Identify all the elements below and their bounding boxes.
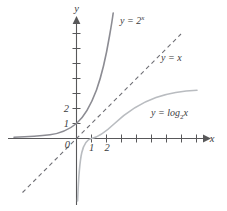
x-tick-label-1: 1	[89, 142, 94, 153]
exponential-curve-label: y = 2x	[119, 14, 145, 26]
logarithm-curve-label: y = log2x	[150, 107, 188, 121]
exp-label-exponent: x	[140, 14, 145, 22]
coordinate-plot: 0 1 2 1 2 x y y = 2x y = x y = log2x	[0, 0, 227, 211]
y-axis-label: y	[73, 3, 79, 14]
y-tick-label-1: 1	[64, 118, 69, 129]
svg-text:y = log2x: y = log2x	[150, 107, 188, 121]
svg-text:y = 2x: y = 2x	[119, 14, 145, 26]
origin-label: 0	[65, 139, 71, 150]
identity-label-text: y = x	[160, 52, 182, 63]
y-tick-label-2: 2	[64, 103, 70, 114]
exp-label-main: y = 2	[119, 15, 141, 26]
y-axis-arrowhead	[73, 16, 81, 24]
log-label-main: y = log	[150, 107, 180, 118]
x-tick-label-2: 2	[104, 142, 110, 153]
x-axis-label: x	[209, 133, 215, 144]
axes-group	[8, 16, 211, 205]
identity-line-label: y = x	[160, 52, 182, 63]
log-label-arg: x	[182, 107, 188, 118]
graph-figure: 0 1 2 1 2 x y y = 2x y = x y = log2x	[0, 0, 227, 211]
